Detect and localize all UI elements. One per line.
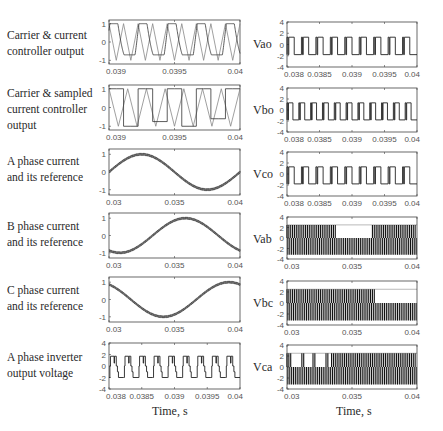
svg-text:-2: -2	[99, 374, 107, 383]
svg-text:-1: -1	[99, 56, 107, 65]
label-vca: Vca	[253, 360, 272, 375]
svg-text:0.0395: 0.0395	[372, 135, 397, 144]
svg-text:-2: -2	[277, 181, 285, 190]
svg-text:0.039: 0.039	[342, 199, 363, 208]
svg-text:0.0395: 0.0395	[372, 199, 397, 208]
svg-text:-2: -2	[277, 374, 285, 383]
label-vab: Vab	[253, 232, 272, 247]
svg-text:0.04: 0.04	[227, 261, 243, 270]
svg-text:0: 0	[102, 168, 107, 177]
svg-text:0: 0	[102, 232, 107, 241]
plot-a-phase-voltage: 420-2-40.0380.03850.0390.03950.04	[109, 343, 240, 389]
plot-vab: 420-2-40.030.0350.04	[287, 217, 417, 259]
svg-text:0.0395: 0.0395	[162, 133, 187, 142]
plot-b-phase-current: 10-10.030.0350.04	[109, 213, 240, 258]
svg-text:0: 0	[102, 38, 107, 47]
plot-c-phase-current: 10-10.030.0350.04	[109, 277, 240, 322]
svg-text:0: 0	[102, 362, 107, 371]
plot-vbc: 420-2-40.030.0350.04	[287, 281, 417, 325]
svg-text:4: 4	[280, 341, 285, 350]
svg-text:0: 0	[280, 234, 285, 243]
svg-text:-2: -2	[277, 117, 285, 126]
svg-text:0.04: 0.04	[227, 67, 243, 76]
svg-text:0.039: 0.039	[342, 70, 363, 79]
svg-text:0.035: 0.035	[164, 325, 185, 334]
plot-carrier-sampled: 10-10.0390.03950.04	[109, 85, 240, 130]
svg-text:1: 1	[102, 85, 107, 94]
svg-text:0: 0	[280, 299, 285, 308]
svg-text:0.0395: 0.0395	[195, 392, 220, 401]
svg-text:0.04: 0.04	[404, 199, 420, 208]
plot-carrier-current: 10-10.0390.03950.04	[109, 20, 240, 64]
svg-text:0: 0	[280, 170, 285, 179]
svg-text:2: 2	[280, 29, 285, 38]
svg-text:4: 4	[280, 148, 285, 157]
svg-text:0.04: 0.04	[227, 325, 243, 334]
plot-vca: 420-2-40.030.0350.04	[287, 345, 417, 389]
svg-text:1: 1	[102, 20, 107, 29]
svg-text:0.03: 0.03	[284, 392, 300, 401]
svg-text:0: 0	[280, 41, 285, 50]
svg-text:0.04: 0.04	[227, 392, 243, 401]
svg-text:0.0385: 0.0385	[130, 392, 155, 401]
svg-text:4: 4	[280, 18, 285, 27]
svg-text:2: 2	[280, 224, 285, 233]
svg-text:-1: -1	[99, 313, 107, 322]
svg-text:0.0395: 0.0395	[162, 67, 187, 76]
plot-vbo: 420-2-40.0380.03850.0390.03950.04	[287, 88, 417, 132]
svg-text:-1: -1	[99, 249, 107, 258]
svg-text:0.04: 0.04	[404, 392, 420, 401]
svg-text:2: 2	[280, 159, 285, 168]
label-b-phase-current: B phase current and its reference	[7, 218, 83, 250]
svg-text:0.038: 0.038	[106, 392, 127, 401]
svg-text:0.04: 0.04	[227, 133, 243, 142]
svg-text:4: 4	[102, 339, 107, 348]
svg-text:0.039: 0.039	[164, 392, 185, 401]
svg-text:-2: -2	[277, 310, 285, 319]
svg-text:0.03: 0.03	[284, 262, 300, 271]
label-a-phase-voltage: A phase inverter output voltage	[7, 349, 82, 381]
svg-text:0.035: 0.035	[342, 392, 363, 401]
x-axis-title-right: Time, s	[336, 404, 372, 419]
svg-text:0: 0	[280, 106, 285, 115]
svg-text:0.03: 0.03	[106, 198, 122, 207]
svg-text:4: 4	[280, 84, 285, 93]
svg-text:0.039: 0.039	[342, 135, 363, 144]
svg-text:0: 0	[280, 363, 285, 372]
svg-text:2: 2	[280, 288, 285, 297]
label-vbo: Vbo	[253, 103, 274, 118]
plot-vco: 420-2-40.0380.03850.0390.03950.04	[287, 152, 417, 196]
svg-text:0.0385: 0.0385	[307, 199, 332, 208]
svg-text:0.04: 0.04	[404, 262, 420, 271]
svg-text:0.0385: 0.0385	[307, 70, 332, 79]
svg-text:-1: -1	[99, 122, 107, 131]
svg-text:1: 1	[102, 214, 107, 223]
label-a-phase-current: A phase current and its reference	[7, 153, 83, 185]
x-axis-title-left: Time, s	[152, 404, 188, 419]
svg-text:2: 2	[280, 95, 285, 104]
label-vco: Vco	[253, 167, 273, 182]
label-c-phase-current: C phase current and its reference	[7, 282, 83, 314]
label-carrier-sampled: Carrier & sampled current controller out…	[7, 85, 93, 133]
svg-text:0.039: 0.039	[106, 133, 127, 142]
svg-text:0.038: 0.038	[284, 135, 305, 144]
svg-text:-2: -2	[277, 52, 285, 61]
svg-text:1: 1	[102, 278, 107, 287]
svg-text:4: 4	[280, 213, 285, 222]
svg-text:0.038: 0.038	[284, 199, 305, 208]
svg-text:0.04: 0.04	[404, 328, 420, 337]
svg-text:0.039: 0.039	[106, 67, 127, 76]
plot-vao: 420-2-40.0380.03850.0390.03950.04	[287, 22, 417, 67]
svg-text:0.04: 0.04	[404, 70, 420, 79]
svg-text:0.03: 0.03	[106, 325, 122, 334]
label-vbc: Vbc	[253, 296, 273, 311]
plot-a-phase-current: 10-10.030.0350.04	[109, 149, 240, 195]
svg-text:2: 2	[102, 351, 107, 360]
label-vao: Vao	[253, 37, 272, 52]
svg-text:0.03: 0.03	[284, 328, 300, 337]
svg-text:0.04: 0.04	[227, 198, 243, 207]
svg-text:4: 4	[280, 277, 285, 286]
svg-text:-2: -2	[277, 245, 285, 254]
svg-text:0.03: 0.03	[106, 261, 122, 270]
svg-text:-1: -1	[99, 186, 107, 195]
